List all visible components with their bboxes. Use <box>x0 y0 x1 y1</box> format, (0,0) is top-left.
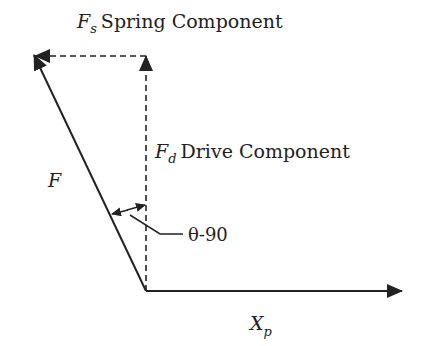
angle-label: θ-90 <box>188 224 228 245</box>
force-diagram: FsSpring Component FdDrive Component F θ… <box>0 0 421 346</box>
spring-component-label: FsSpring Component <box>76 10 283 36</box>
force-label: F <box>47 169 62 191</box>
angle-arc-icon <box>112 205 145 214</box>
xp-axis-label: Xp <box>248 312 273 339</box>
angle-leader-line <box>130 215 183 234</box>
drive-component-label: FdDrive Component <box>154 140 350 166</box>
